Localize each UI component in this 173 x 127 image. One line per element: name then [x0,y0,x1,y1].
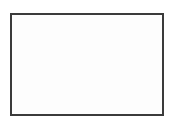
outer-frame [11,14,163,115]
diagram-canvas [0,0,173,127]
partitioned-rectangle-diagram [0,0,173,127]
